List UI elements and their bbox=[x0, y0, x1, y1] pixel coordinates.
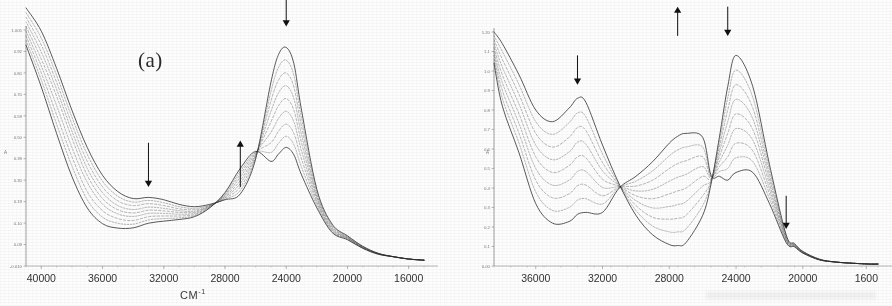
y-tick-label: 0.59 bbox=[14, 114, 23, 119]
y-tick-label: 0.3 bbox=[484, 205, 491, 210]
y-tick-label: 0.70 bbox=[14, 92, 23, 97]
y-tick-label: 0.9 bbox=[484, 88, 491, 93]
panel-a-label: (a) bbox=[138, 48, 163, 73]
spectral-panel-b: 1.201.11.00.90.80.70.60.50.40.30.20.10.0… bbox=[446, 0, 892, 306]
spectrum-curve bbox=[494, 63, 878, 264]
panel-b-plot: 1.201.11.00.90.80.70.60.50.40.30.20.10.0… bbox=[446, 0, 892, 306]
x-tick-label: 32000 bbox=[588, 272, 617, 284]
spectral-panel-a: 1.0050.920.800.700.590.500.390.300.190.1… bbox=[0, 0, 446, 306]
y-tick-label: 1.0 bbox=[484, 69, 491, 74]
y-tick-label: 0.19 bbox=[14, 199, 23, 204]
x-tick-label: 1600 bbox=[855, 272, 879, 284]
panel-b-y-axis-title: A bbox=[486, 150, 489, 155]
spectrum-curve bbox=[26, 45, 424, 260]
x-tick-label: 36000 bbox=[88, 272, 117, 284]
y-tick-label: 0.4 bbox=[484, 186, 491, 191]
panel-a-y-axis-title: A bbox=[4, 150, 7, 155]
spectrum-curve bbox=[494, 52, 878, 265]
y-tick-label: 1.1 bbox=[484, 49, 491, 54]
x-tick-label: 24000 bbox=[721, 272, 750, 284]
spectrum-curve bbox=[26, 31, 424, 260]
spectrum-curve bbox=[494, 48, 878, 265]
arrow-down-24500 bbox=[724, 7, 731, 36]
y-tick-label: 0.1 bbox=[484, 244, 491, 249]
spectrum-curve bbox=[26, 36, 424, 260]
y-tick-label: 0.30 bbox=[14, 178, 23, 183]
y-tick-label: 0.09 bbox=[14, 242, 23, 247]
y-tick-label: 0.00 bbox=[482, 264, 491, 269]
spectrum-curve bbox=[26, 17, 424, 260]
arrow-down-33000 bbox=[145, 143, 152, 187]
panel-a-x-axis-title-text: CM bbox=[180, 289, 198, 301]
figure-root: 1.0050.920.800.700.590.500.390.300.190.1… bbox=[0, 0, 892, 306]
y-tick-label: 1.005 bbox=[11, 28, 22, 33]
x-tick-label: 32000 bbox=[149, 272, 178, 284]
y-tick-label: 0.50 bbox=[14, 135, 23, 140]
x-tick-label: 40000 bbox=[27, 272, 56, 284]
spectrum-curve bbox=[26, 13, 424, 261]
x-tick-label: 28000 bbox=[210, 272, 239, 284]
spectrum-curve bbox=[494, 59, 878, 264]
y-tick-label: 0.7 bbox=[484, 127, 491, 132]
y-tick-label: 0.10 bbox=[14, 221, 23, 226]
spectrum-curve bbox=[26, 22, 424, 260]
panel-a-plot: 1.0050.920.800.700.590.500.390.300.190.1… bbox=[0, 0, 446, 306]
arrow-up-27500 bbox=[674, 7, 681, 36]
x-tick-label: 24000 bbox=[272, 272, 301, 284]
panel-a-x-axis-title-exponent: -1 bbox=[198, 288, 205, 295]
y-tick-label: 0.2 bbox=[484, 225, 491, 230]
y-tick-label: -0.010 bbox=[10, 264, 23, 269]
x-tick-label: 36000 bbox=[521, 272, 550, 284]
y-tick-label: 0.92 bbox=[14, 49, 23, 54]
arrow-down-33500 bbox=[574, 55, 581, 84]
y-tick-label: 0.5 bbox=[484, 166, 491, 171]
arrow-down-21000 bbox=[783, 196, 790, 229]
spectrum-curve bbox=[26, 8, 424, 260]
y-tick-label: 0.39 bbox=[14, 156, 23, 161]
x-tick-label: 28000 bbox=[655, 272, 684, 284]
x-tick-label: 20000 bbox=[788, 272, 817, 284]
spectrum-curve bbox=[494, 44, 878, 264]
x-tick-label: 20000 bbox=[333, 272, 362, 284]
y-tick-label: 0.8 bbox=[484, 108, 491, 113]
spectrum-curve bbox=[494, 40, 878, 264]
x-tick-label: 16000 bbox=[394, 272, 423, 284]
spectrum-curve bbox=[494, 36, 878, 264]
panel-a-x-axis-title: CM-1 bbox=[180, 288, 206, 301]
y-tick-label: 0.80 bbox=[14, 71, 23, 76]
spectrum-curve bbox=[26, 40, 424, 260]
arrow-down-24000 bbox=[283, 0, 290, 27]
y-tick-label: 1.20 bbox=[482, 30, 491, 35]
